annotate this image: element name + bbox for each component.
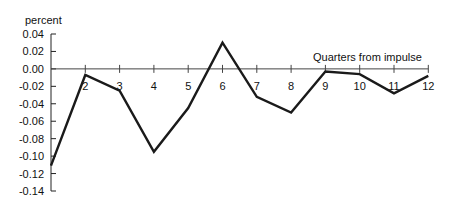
x-tick-label: 7 (254, 80, 260, 92)
y-tick-label: -0.14 (19, 185, 44, 197)
x-axis: 23456789101112 (51, 65, 434, 92)
y-tick-label: -0.06 (19, 115, 44, 127)
y-tick-label: 0.00 (23, 63, 44, 75)
y-tick-label: -0.12 (19, 168, 44, 180)
x-axis-label: Quarters from impulse (313, 51, 422, 63)
y-tick-label: -0.08 (19, 133, 44, 145)
x-tick-label: 9 (322, 80, 328, 92)
x-tick-label: 4 (151, 80, 157, 92)
x-tick-label: 12 (422, 80, 434, 92)
x-tick-label: 6 (219, 80, 225, 92)
x-tick-label: 10 (354, 80, 366, 92)
y-axis: 0.040.020.00-0.02-0.04-0.06-0.08-0.10-0.… (19, 28, 56, 197)
y-tick-label: -0.02 (19, 80, 44, 92)
impulse-response-chart: percent Quarters from impulse 0.040.020.… (0, 0, 449, 206)
x-tick-label: 5 (185, 80, 191, 92)
y-tick-label: 0.04 (23, 28, 44, 40)
y-tick-label: -0.04 (19, 98, 44, 110)
y-tick-label: 0.02 (23, 45, 44, 57)
y-tick-label: -0.10 (19, 150, 44, 162)
y-axis-label: percent (25, 14, 62, 26)
x-tick-label: 8 (288, 80, 294, 92)
